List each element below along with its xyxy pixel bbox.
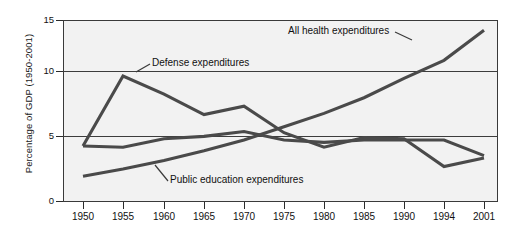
education-leader-line <box>155 165 168 181</box>
defense-label: Defense expenditures <box>152 57 249 68</box>
defense-leader-line <box>136 64 150 72</box>
series-line-defense <box>83 76 484 166</box>
education-label: Public education expenditures <box>170 174 303 185</box>
series-layer <box>0 0 526 236</box>
health-label: All health expenditures <box>288 25 389 36</box>
health-leader-line <box>395 32 412 40</box>
line-chart: Percentage of GDP (1950-2001) 15 10 5 0 … <box>0 0 526 236</box>
